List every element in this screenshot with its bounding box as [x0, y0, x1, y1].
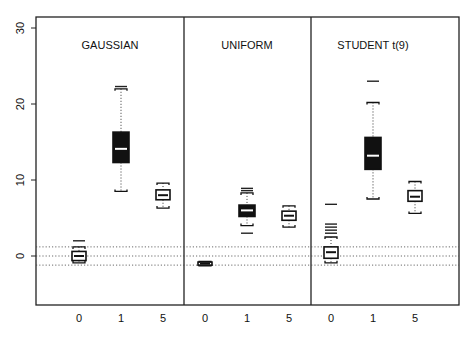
box-gaussian-0	[72, 241, 86, 263]
whisker-cap	[241, 224, 253, 226]
x-tick-label: 1	[118, 312, 124, 324]
whisker-cap	[409, 211, 421, 213]
box-uniform-1	[239, 188, 255, 233]
x-tick-label: 5	[160, 312, 166, 324]
panel-title: STUDENT t(9)	[337, 39, 408, 51]
box-student-t-9--1	[365, 81, 381, 199]
panel-title: UNIFORM	[221, 39, 272, 51]
panel-title: GAUSSIAN	[82, 39, 139, 51]
panel-titles: GAUSSIANUNIFORMSTUDENT t(9)	[82, 39, 409, 51]
x-tick-label: 0	[76, 312, 82, 324]
y-tick-label: 20	[14, 98, 26, 110]
box-student-t-9--5	[408, 182, 422, 214]
box-uniform-0	[198, 261, 212, 266]
box-body	[365, 137, 381, 169]
x-tick-label: 5	[412, 312, 418, 324]
box-gaussian-1	[113, 87, 129, 192]
plot-frame	[36, 17, 459, 305]
box-groups	[72, 81, 422, 266]
boxplot-chart: 0102030015015015 GAUSSIANUNIFORMSTUDENT …	[0, 0, 471, 337]
x-tick-label: 1	[244, 312, 250, 324]
x-tick-label: 0	[328, 312, 334, 324]
x-tick-label: 1	[370, 312, 376, 324]
box-student-t-9--0	[324, 204, 338, 263]
chart-canvas: 0102030015015015 GAUSSIANUNIFORMSTUDENT …	[0, 0, 471, 337]
box-gaussian-5	[156, 183, 170, 208]
x-tick-label: 5	[286, 312, 292, 324]
plot-border	[36, 17, 459, 305]
y-tick-label: 30	[14, 22, 26, 34]
whisker-cap	[283, 225, 295, 227]
axes: 0102030015015015	[14, 22, 418, 324]
box-uniform-5	[282, 206, 296, 227]
y-tick-label: 10	[14, 174, 26, 186]
reference-lines	[36, 247, 459, 265]
y-tick-label: 0	[14, 253, 26, 259]
x-tick-label: 0	[202, 312, 208, 324]
box-body	[113, 132, 129, 162]
